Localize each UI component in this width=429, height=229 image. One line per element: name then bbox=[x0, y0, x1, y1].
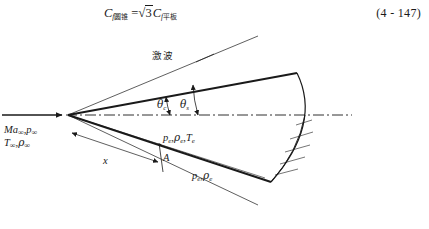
theta-s-subscript: s bbox=[186, 104, 189, 112]
freestream-conditions-line2: T∞,ρ∞ bbox=[4, 136, 30, 150]
cone-edge-conditions-lower: pe,ρe bbox=[192, 169, 212, 183]
mach-symbol: Ma bbox=[4, 124, 18, 135]
point-A-marker bbox=[159, 144, 162, 147]
angle-label-theta-s: θs bbox=[180, 98, 189, 112]
cone-base-inner-arc bbox=[271, 115, 305, 182]
freestream-density-subscript: ∞ bbox=[24, 141, 30, 150]
boundary-edge-lower bbox=[68, 115, 265, 178]
cone-flow-diagram bbox=[0, 0, 429, 229]
angle-label-theta-c: θc bbox=[157, 98, 166, 112]
angle-arc-shock bbox=[193, 85, 198, 115]
shock-label-leader bbox=[196, 54, 214, 62]
point-label-A: A bbox=[163, 152, 169, 163]
freestream-pressure-subscript: ∞ bbox=[32, 128, 38, 137]
theta-c-subscript: c bbox=[163, 104, 166, 112]
edge-temperature-subscript-upper: e bbox=[192, 137, 195, 145]
diagram-page: Cf圆锥 =√3Cf平板 (4 - 147) bbox=[0, 0, 429, 229]
angle-arc-cone bbox=[166, 97, 170, 115]
shock-wave-label: 激波 bbox=[152, 48, 173, 62]
distance-label-x: x bbox=[103, 155, 108, 166]
edge-density-subscript-lower: e bbox=[209, 175, 212, 183]
cone-base-arc bbox=[271, 73, 305, 182]
cone-edge-conditions-upper: pe,ρe,Te bbox=[163, 131, 195, 145]
